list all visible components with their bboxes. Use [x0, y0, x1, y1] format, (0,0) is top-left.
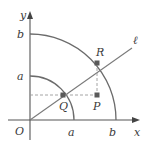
point-p — [95, 93, 100, 98]
x-axis-arrow-icon — [132, 117, 140, 123]
axes — [8, 11, 140, 140]
point-r-label: R — [95, 46, 104, 59]
y-axis-label: y — [19, 9, 27, 22]
y-tick-a-label: a — [17, 70, 24, 83]
inner-arc-a — [30, 76, 74, 120]
point-q-label: Q — [59, 100, 68, 113]
line-l — [30, 48, 132, 120]
x-axis-label: x — [134, 126, 141, 139]
point-p-label: P — [92, 100, 101, 113]
point-q — [61, 93, 66, 98]
y-axis-arrow-icon — [27, 11, 33, 19]
y-tick-b-label: b — [17, 28, 24, 41]
x-tick-b-label: b — [109, 126, 116, 139]
x-tick-a-label: a — [68, 126, 75, 139]
point-r — [95, 61, 100, 66]
geometry-diagram: y x O b a a b R Q P ℓ — [0, 0, 142, 148]
line-l-label: ℓ — [133, 34, 138, 47]
origin-label: O — [15, 125, 24, 138]
